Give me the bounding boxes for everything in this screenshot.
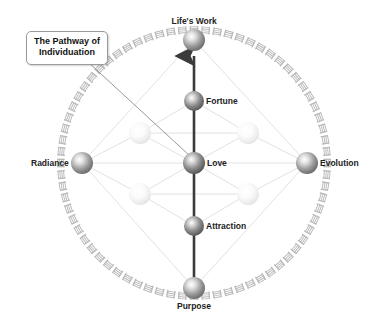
- ring-glyph-mark: [297, 234, 308, 245]
- ring-glyph-mark: [166, 290, 176, 299]
- ring-glyph-mark: [282, 251, 293, 262]
- ring-glyph-mark: [314, 203, 324, 214]
- ring-glyph-mark: [223, 30, 233, 39]
- ring-glyph-mark: [155, 287, 165, 296]
- ring-glyph-mark: [143, 283, 154, 293]
- ring-glyph-mark: [309, 214, 319, 225]
- ring-glyph-mark: [255, 42, 266, 53]
- ring-glyph-mark: [290, 243, 301, 254]
- ring-glyph-mark: [322, 147, 330, 156]
- ring-glyph-mark: [274, 259, 285, 270]
- ring-glyph-mark: [80, 234, 91, 245]
- ring-glyph-mark: [59, 135, 68, 145]
- ring-glyph-mark: [112, 49, 123, 60]
- callout-the-pathway-of-individuation: The Pathway of Individuation: [26, 31, 108, 65]
- node-sphere-love[interactable]: [183, 152, 205, 174]
- ring-glyph-mark: [297, 81, 308, 92]
- ring-glyph-mark: [143, 33, 154, 43]
- ring-glyph-mark: [265, 49, 276, 60]
- diagram-canvas: Life's WorkFortuneLoveAttractionPurposeR…: [0, 0, 389, 327]
- ring-glyph-mark: [245, 37, 256, 47]
- ring-glyph-mark: [64, 112, 74, 123]
- ring-glyph-mark: [73, 224, 84, 235]
- ring-glyph-mark: [87, 72, 98, 83]
- node-label-radiance: Radiance: [31, 159, 69, 168]
- ring-glyph-mark: [234, 283, 245, 293]
- ring-glyph-mark: [122, 42, 133, 53]
- node-label-evolution: Evolution: [320, 159, 359, 168]
- ring-glyph-mark: [212, 290, 222, 299]
- ring-glyph-mark: [87, 243, 98, 254]
- node-sphere-faint-upper-right[interactable]: [237, 122, 259, 144]
- ring-glyph-mark: [321, 135, 330, 145]
- ring-glyph-mark: [223, 287, 233, 296]
- ring-glyph-mark: [57, 147, 65, 156]
- ring-glyph-mark: [132, 37, 143, 47]
- node-label-purpose: Purpose: [177, 302, 211, 311]
- node-label-attraction: Attraction: [206, 222, 246, 231]
- ring-glyph-mark: [234, 33, 245, 43]
- node-sphere-faint-lower-left[interactable]: [129, 183, 151, 205]
- ring-glyph-mark: [314, 112, 324, 123]
- ring-glyph-mark: [282, 63, 293, 74]
- ring-glyph-mark: [309, 101, 319, 112]
- node-label-love: Love: [207, 159, 227, 168]
- callout-line-1: The Pathway of: [34, 36, 100, 47]
- ring-glyph-mark: [68, 214, 78, 225]
- ring-glyph-mark: [61, 192, 70, 202]
- node-label-lifes-work: Life's Work: [172, 17, 217, 26]
- node-label-fortune: Fortune: [206, 97, 238, 106]
- node-sphere-evolution[interactable]: [296, 152, 318, 174]
- ring-glyph-mark: [290, 72, 301, 83]
- node-sphere-radiance[interactable]: [71, 152, 93, 174]
- ring-glyph-mark: [265, 266, 276, 277]
- lattice-edge: [82, 163, 194, 288]
- node-sphere-purpose[interactable]: [183, 277, 205, 299]
- ring-glyph-mark: [166, 28, 176, 37]
- ring-glyph-mark: [255, 273, 266, 284]
- ring-glyph-mark: [304, 91, 315, 102]
- ring-glyph-mark: [318, 192, 327, 202]
- ring-glyph-mark: [321, 181, 330, 191]
- node-sphere-faint-lower-right[interactable]: [237, 183, 259, 205]
- ring-glyph-mark: [68, 101, 78, 112]
- ring-glyph-mark: [274, 56, 285, 67]
- ring-glyph-mark: [245, 278, 256, 288]
- ring-glyph-mark: [112, 266, 123, 277]
- ring-glyph-mark: [59, 181, 68, 191]
- node-sphere-faint-upper-left[interactable]: [129, 122, 151, 144]
- ring-glyph-mark: [57, 170, 65, 179]
- ring-glyph-mark: [122, 273, 133, 284]
- ring-glyph-mark: [80, 81, 91, 92]
- ring-glyph-mark: [73, 91, 84, 102]
- node-sphere-attraction[interactable]: [184, 216, 204, 236]
- ring-glyph-mark: [304, 224, 315, 235]
- ring-glyph-mark: [94, 251, 105, 262]
- ring-glyph-mark: [212, 28, 222, 37]
- ring-glyph-mark: [318, 124, 327, 134]
- ring-glyph-mark: [64, 203, 74, 214]
- ring-glyph-mark: [132, 278, 143, 288]
- ring-glyph-mark: [322, 170, 330, 179]
- ring-glyph-mark: [103, 259, 114, 270]
- ring-glyph-mark: [61, 124, 70, 134]
- node-sphere-fortune[interactable]: [184, 91, 204, 111]
- ring-glyph-mark: [155, 30, 165, 39]
- callout-line-2: Individuation: [34, 47, 100, 58]
- node-sphere-lifes-work[interactable]: [183, 29, 205, 51]
